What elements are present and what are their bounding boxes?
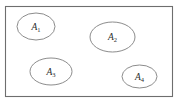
set-group-A2: A2: [90, 22, 135, 52]
set-label-A1: A1: [30, 22, 40, 33]
set-group-A3: A3: [30, 58, 72, 85]
set-group-A4: A4: [122, 65, 157, 88]
set-label-subscript-A1: 1: [37, 26, 40, 33]
set-label-subscript-A4: 4: [141, 76, 145, 83]
diagram-canvas: A1 A2 A3 A4: [0, 0, 192, 103]
set-label-A4: A4: [134, 72, 145, 83]
set-label-A2: A2: [107, 32, 117, 43]
universal-set-rectangle: [6, 7, 173, 97]
diagram-svg: A1 A2 A3 A4: [0, 0, 192, 103]
set-label-subscript-A3: 3: [52, 71, 55, 78]
set-group-A1: A1: [17, 13, 55, 40]
set-label-A3: A3: [45, 67, 55, 78]
set-label-subscript-A2: 2: [114, 36, 117, 43]
